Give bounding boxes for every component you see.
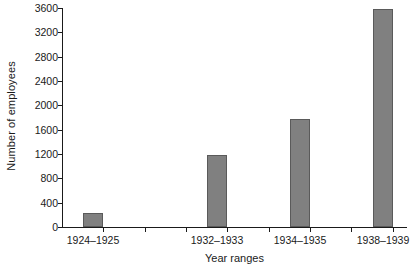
bar xyxy=(83,213,103,227)
x-axis-tick-labels: 1924–19251932–19331934–19351938–1939 xyxy=(62,234,407,250)
y-tick-label: 400 xyxy=(40,198,58,208)
x-tick-label: 1932–1933 xyxy=(191,234,244,246)
plot-area xyxy=(62,8,407,228)
x-tick-label: 1938–1939 xyxy=(357,234,410,246)
bar-chart: Number of employees 04008001200160020002… xyxy=(0,0,416,279)
x-tick-mark xyxy=(227,228,228,232)
y-tick-label: 2000 xyxy=(35,100,58,110)
y-tick-label: 2400 xyxy=(35,76,58,86)
bar xyxy=(207,155,227,227)
y-axis-title: Number of employees xyxy=(0,0,22,232)
x-tick-label: 1934–1935 xyxy=(274,234,327,246)
x-tick-mark xyxy=(145,228,146,232)
x-tick-mark xyxy=(269,228,270,232)
y-tick-label: 800 xyxy=(40,173,58,183)
x-tick-mark xyxy=(351,228,352,232)
y-tick-mark xyxy=(58,105,62,106)
y-tick-mark xyxy=(58,130,62,131)
x-tick-mark xyxy=(103,228,104,232)
bar xyxy=(290,119,310,227)
y-tick-label: 3600 xyxy=(35,3,58,13)
x-tick-mark xyxy=(186,228,187,232)
x-tick-mark xyxy=(310,228,311,232)
y-axis-tick-labels: 04008001200160020002400280032003600 xyxy=(20,0,58,232)
y-tick-label: 2800 xyxy=(35,52,58,62)
y-axis-line xyxy=(62,8,63,228)
x-axis-title: Year ranges xyxy=(62,252,407,264)
y-tick-mark xyxy=(58,154,62,155)
y-tick-mark xyxy=(58,227,62,228)
x-tick-mark xyxy=(393,228,394,232)
y-tick-mark xyxy=(58,203,62,204)
x-tick-label: 1924–1925 xyxy=(67,234,120,246)
y-tick-label: 1600 xyxy=(35,125,58,135)
y-tick-label: 1200 xyxy=(35,149,58,159)
y-tick-mark xyxy=(58,57,62,58)
y-axis-title-text: Number of employees xyxy=(5,61,17,171)
x-axis-line xyxy=(62,227,407,228)
y-tick-label: 3200 xyxy=(35,27,58,37)
y-tick-mark xyxy=(58,8,62,9)
y-tick-mark xyxy=(58,178,62,179)
y-tick-mark xyxy=(58,81,62,82)
bar xyxy=(373,9,393,227)
y-tick-mark xyxy=(58,32,62,33)
